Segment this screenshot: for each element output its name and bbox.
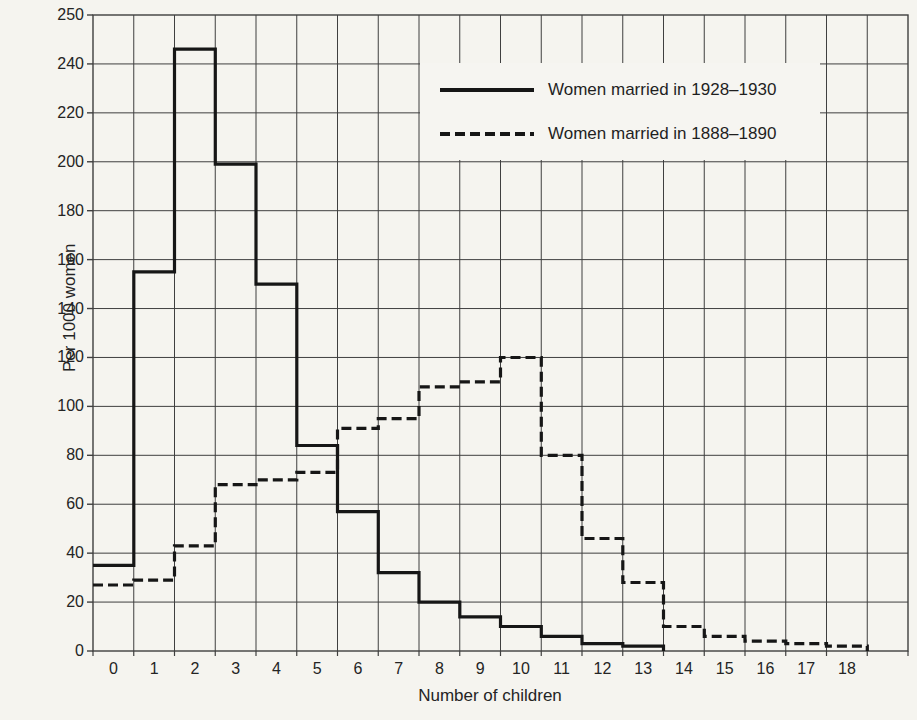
- x-tick-label: 10: [512, 660, 530, 678]
- y-tick-label: 220: [0, 104, 84, 122]
- y-tick-label: 0: [0, 642, 84, 660]
- x-tick-label: 16: [756, 660, 774, 678]
- y-tick-label: 200: [0, 153, 84, 171]
- y-tick-label: 40: [0, 544, 84, 562]
- y-tick-label: 100: [0, 397, 84, 415]
- y-tick-label: 120: [0, 348, 84, 366]
- y-tick-label: 250: [0, 6, 84, 24]
- x-tick-label: 5: [313, 660, 322, 678]
- x-axis-title: Number of children: [418, 686, 562, 706]
- x-tick-label: 3: [231, 660, 240, 678]
- x-tick-label: 1: [150, 660, 159, 678]
- legend-item-1888-1890: Women married in 1888–1890: [440, 124, 820, 144]
- y-tick-label: 60: [0, 495, 84, 513]
- x-tick-label: 11: [553, 660, 570, 678]
- x-tick-label: 0: [109, 660, 118, 678]
- y-tick-label: 180: [0, 202, 84, 220]
- x-tick-label: 14: [675, 660, 693, 678]
- x-tick-label: 2: [190, 660, 199, 678]
- x-tick-label: 8: [435, 660, 444, 678]
- y-tick-label: 20: [0, 593, 84, 611]
- y-tick-label: 140: [0, 300, 84, 318]
- x-tick-label: 18: [838, 660, 856, 678]
- x-tick-label: 12: [593, 660, 611, 678]
- x-tick-label: 13: [634, 660, 652, 678]
- solid-line-sample: [440, 88, 534, 92]
- legend-label-1928-1930: Women married in 1928–1930: [548, 80, 776, 100]
- x-tick-label: 4: [272, 660, 281, 678]
- legend-label-1888-1890: Women married in 1888–1890: [548, 124, 776, 144]
- y-tick-label: 160: [0, 251, 84, 269]
- y-tick-label: 80: [0, 446, 84, 464]
- x-tick-label: 7: [394, 660, 403, 678]
- dashed-line-sample: [440, 132, 534, 136]
- legend-item-1928-1930: Women married in 1928–1930: [440, 80, 820, 100]
- x-tick-label: 9: [476, 660, 485, 678]
- x-tick-label: 6: [353, 660, 362, 678]
- x-tick-label: 17: [797, 660, 815, 678]
- legend: Women married in 1928–1930 Women married…: [420, 63, 820, 160]
- y-tick-label: 240: [0, 55, 84, 73]
- fertility-histogram-figure: Per 1000 women Number of children Women …: [0, 0, 917, 720]
- x-tick-label: 15: [716, 660, 734, 678]
